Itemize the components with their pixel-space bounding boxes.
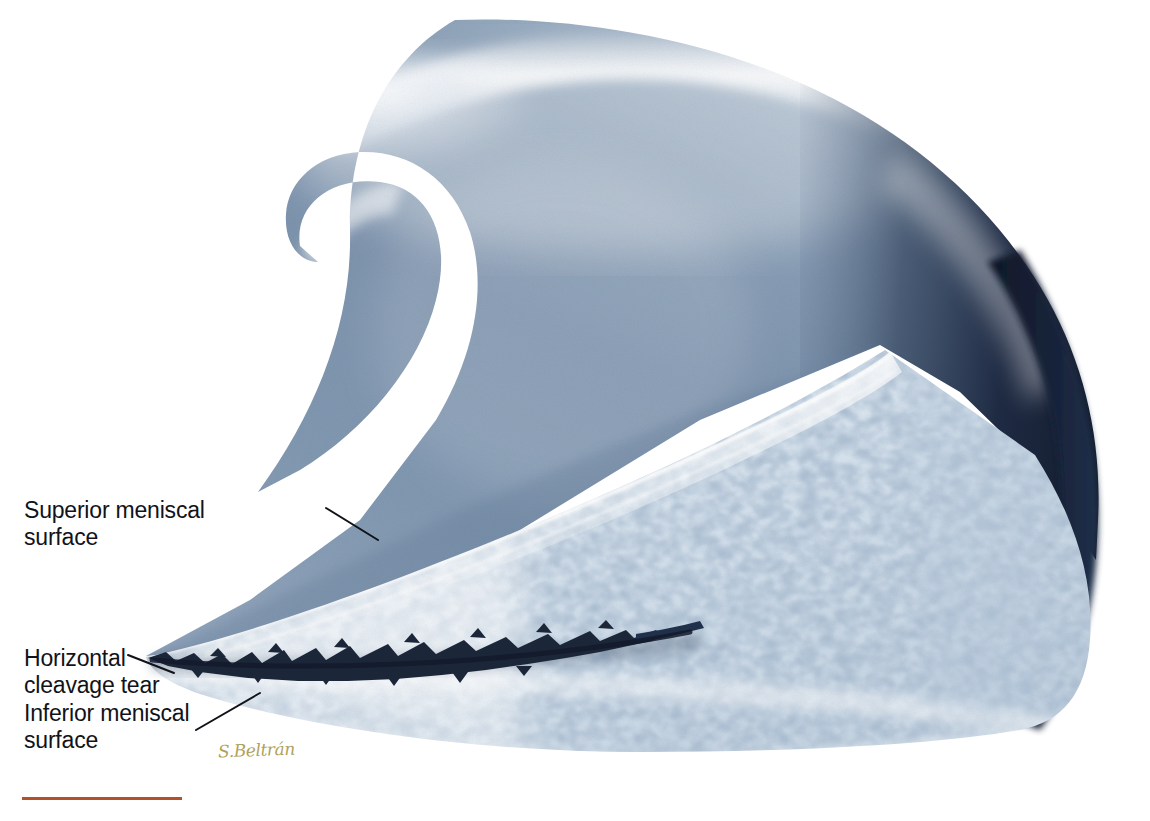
artist-signature: S.Beltrán (218, 739, 296, 762)
label-inferior-meniscal-surface: Inferior meniscal surface (24, 700, 189, 754)
label-superior-meniscal-surface: Superior meniscal surface (24, 497, 205, 551)
bottom-rule (22, 797, 182, 800)
label-horizontal-cleavage-tear: Horizontal cleavage tear (24, 645, 160, 699)
meniscus-illustration (0, 0, 1150, 821)
